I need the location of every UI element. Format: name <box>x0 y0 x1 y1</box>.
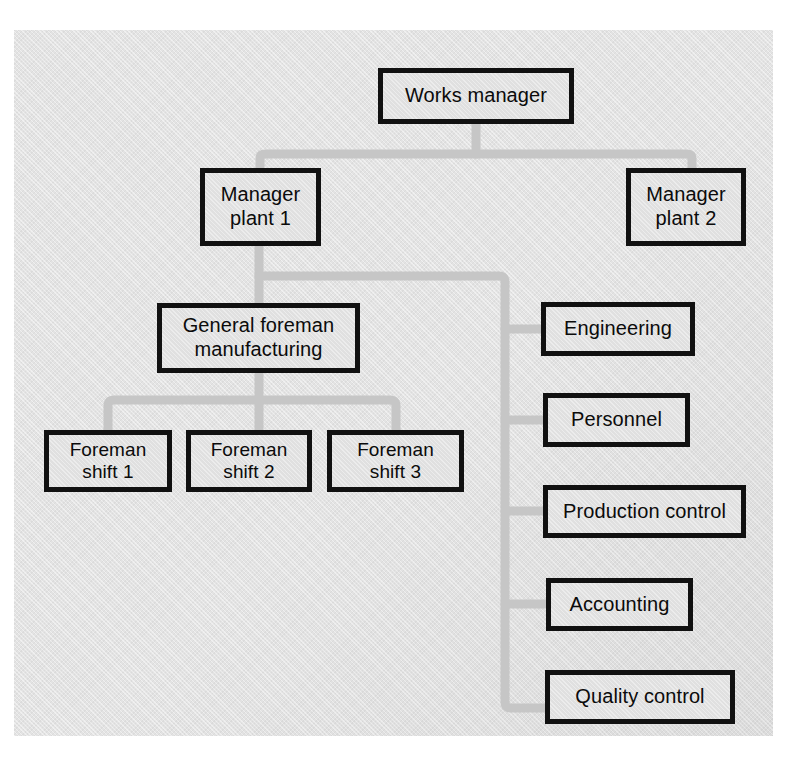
node-works-manager-label: Works manager <box>405 84 547 108</box>
edge-foremen-bus <box>108 400 396 430</box>
node-personnel-label: Personnel <box>571 408 662 432</box>
edge-plant-managers-bus <box>260 154 692 168</box>
node-foreman-shift-3[interactable]: Foreman shift 3 <box>327 430 464 492</box>
node-accounting-label: Accounting <box>570 593 670 617</box>
node-general-foreman-label: General foreman manufacturing <box>183 314 335 361</box>
node-manager-plant-1-label: Manager plant 1 <box>221 183 301 230</box>
node-engineering-label: Engineering <box>564 317 672 341</box>
node-personnel[interactable]: Personnel <box>543 393 690 447</box>
node-engineering[interactable]: Engineering <box>541 302 695 356</box>
node-accounting[interactable]: Accounting <box>546 578 693 631</box>
org-chart-screenshot: Works manager Manager plant 1 Manager pl… <box>0 0 803 759</box>
node-production-control[interactable]: Production control <box>543 485 746 538</box>
node-manager-plant-2-label: Manager plant 2 <box>646 183 726 230</box>
node-production-control-label: Production control <box>563 500 726 524</box>
node-manager-plant-1[interactable]: Manager plant 1 <box>200 168 321 246</box>
node-quality-control[interactable]: Quality control <box>545 670 735 724</box>
node-foreman-shift-2-label: Foreman shift 2 <box>211 439 288 484</box>
node-quality-control-label: Quality control <box>575 685 704 709</box>
node-foreman-shift-3-label: Foreman shift 3 <box>357 439 434 484</box>
node-foreman-shift-1-label: Foreman shift 1 <box>70 439 147 484</box>
node-general-foreman-manufacturing[interactable]: General foreman manufacturing <box>157 303 360 373</box>
node-works-manager[interactable]: Works manager <box>378 68 574 124</box>
node-foreman-shift-1[interactable]: Foreman shift 1 <box>44 430 172 492</box>
node-manager-plant-2[interactable]: Manager plant 2 <box>626 168 746 246</box>
node-foreman-shift-2[interactable]: Foreman shift 2 <box>186 430 312 492</box>
